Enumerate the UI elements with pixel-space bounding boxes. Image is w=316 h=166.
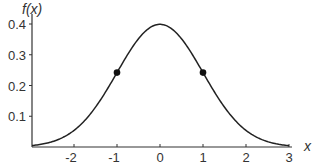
normal-density-chart: 0.10.20.30.4 -2-10123 f(x) x (0, 0, 316, 166)
x-axis-title: x (303, 138, 312, 154)
inflection-point-marker (200, 69, 207, 76)
y-tick-label: 0.2 (8, 79, 26, 94)
x-tick-label: 0 (156, 150, 163, 165)
x-tick-label: -2 (65, 150, 77, 165)
axes (32, 14, 292, 147)
inflection-point-marker (114, 69, 121, 76)
y-axis-title: f(x) (22, 1, 42, 17)
inflection-markers (114, 69, 207, 76)
x-tick-label: 1 (199, 150, 206, 165)
x-tick-label: -1 (108, 150, 120, 165)
x-tick-label: 2 (242, 150, 249, 165)
y-ticks: 0.10.20.30.4 (8, 17, 32, 124)
density-curve (32, 24, 289, 145)
x-tick-label: 3 (285, 150, 292, 165)
y-tick-label: 0.1 (8, 109, 26, 124)
y-tick-label: 0.4 (8, 17, 26, 32)
y-tick-label: 0.3 (8, 48, 26, 63)
